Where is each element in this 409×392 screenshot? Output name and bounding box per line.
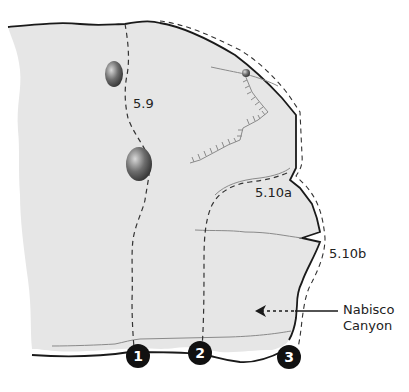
route-marker-3: 3 (277, 345, 301, 369)
route-marker-1-number: 1 (133, 348, 143, 364)
callout-text: Nabisco Canyon (343, 302, 394, 334)
grade-label-route-3: 5.10b (329, 246, 366, 261)
small-hueco-right (242, 69, 250, 77)
callout-line-1: Nabisco (343, 302, 394, 318)
route-marker-2-number: 2 (195, 345, 205, 361)
bottom-edge-outline (32, 350, 285, 362)
route-marker-1: 1 (126, 344, 150, 368)
hueco-upper (105, 61, 123, 87)
route-marker-2: 2 (188, 341, 212, 365)
callout-line-2: Canyon (343, 318, 394, 334)
hueco-lower (126, 147, 152, 181)
route-marker-3-number: 3 (284, 349, 294, 365)
grade-label-route-1: 5.9 (133, 96, 154, 111)
grade-label-route-2: 5.10a (255, 185, 292, 200)
